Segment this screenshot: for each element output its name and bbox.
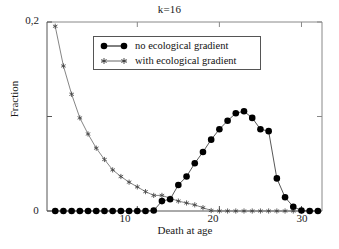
data-point: [93, 208, 100, 215]
data-point: [142, 208, 149, 215]
data-point: [201, 205, 206, 210]
data-point: [85, 208, 92, 215]
data-point: [265, 128, 272, 135]
y-axis-label: Fraction: [8, 69, 20, 129]
series-no-gradient: [52, 108, 321, 214]
y-axis-tick-zero: 0: [28, 204, 44, 216]
data-point: [257, 126, 264, 133]
data-point: [68, 208, 75, 215]
legend-marker-star-icon: [99, 54, 129, 68]
data-point: [86, 131, 91, 136]
data-point: [60, 208, 67, 215]
data-point: [233, 110, 240, 117]
legend: no ecological gradient with ecological g…: [93, 36, 261, 70]
x-axis-tick-30: 30: [290, 212, 314, 224]
legend-label-no-gradient: no ecological gradient: [135, 38, 228, 54]
legend-entry-no-gradient: no ecological gradient: [99, 38, 228, 54]
data-point: [61, 63, 66, 68]
data-point: [69, 92, 74, 97]
data-point: [77, 208, 84, 215]
data-point: [101, 208, 108, 215]
data-point: [175, 182, 182, 189]
data-point: [315, 208, 322, 215]
figure-container: k=16 Fraction Death at age 0,2 0 10 20 3…: [0, 0, 339, 249]
data-point: [143, 189, 148, 194]
data-point: [167, 196, 174, 203]
x-axis-tick-10: 10: [113, 212, 137, 224]
data-point: [135, 184, 140, 189]
data-point: [53, 24, 58, 29]
data-point: [200, 149, 207, 156]
data-point: [274, 175, 281, 182]
data-point: [78, 115, 83, 120]
data-point: [208, 136, 215, 143]
data-point: [224, 117, 231, 124]
data-point: [159, 198, 166, 205]
x-axis-tick-20: 20: [201, 212, 225, 224]
data-point: [150, 207, 157, 214]
legend-label-with-gradient: with ecological gradient: [135, 53, 236, 69]
data-point: [127, 180, 132, 185]
data-point: [52, 208, 59, 215]
data-point: [290, 203, 297, 210]
y-axis-tick-top: 0,2: [20, 14, 44, 26]
data-point: [249, 115, 256, 122]
data-point: [191, 160, 198, 167]
x-axis-label: Death at age: [47, 224, 323, 236]
data-point: [216, 126, 223, 133]
data-point: [241, 108, 248, 115]
legend-marker-filled-circle-icon: [99, 39, 129, 53]
data-point: [282, 194, 289, 201]
data-point: [183, 173, 190, 180]
legend-entry-with-gradient: with ecological gradient: [99, 53, 236, 69]
